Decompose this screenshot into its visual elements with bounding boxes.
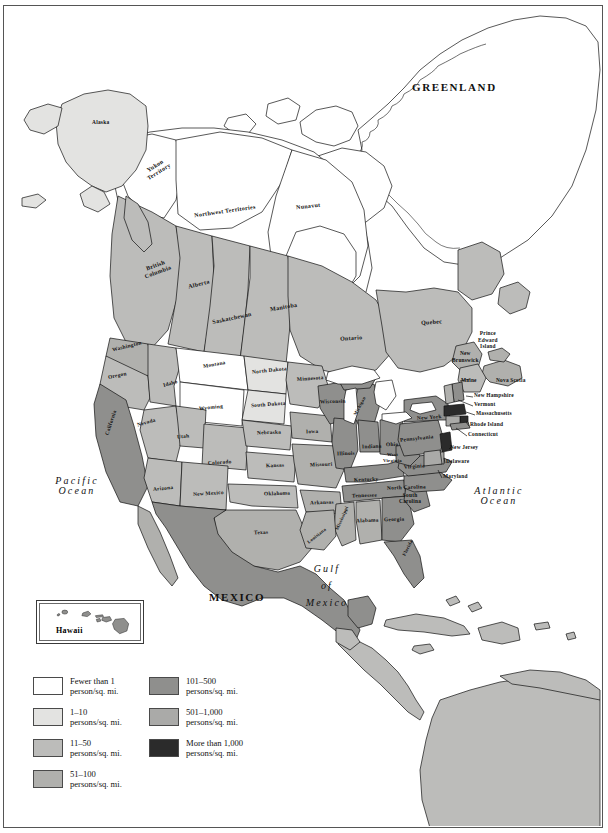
region-new-mexico xyxy=(180,462,228,510)
island-lesser-antilles xyxy=(566,632,576,640)
lg-a2-l1: 11–50 xyxy=(70,738,91,748)
lg-b1-l2: persons/sq. mi. xyxy=(186,717,238,727)
island-niihau xyxy=(57,613,60,616)
region-illinois xyxy=(332,418,358,470)
legend-item-1-10[interactable]: 1–10 persons/sq. mi. xyxy=(33,707,122,727)
region-mississippi xyxy=(334,502,356,546)
lg-b0-l2: persons/sq. mi. xyxy=(186,686,238,696)
lg-b0-l1: 101–500 xyxy=(186,676,216,686)
lg-b2-l2: persons/sq. mi. xyxy=(186,748,238,758)
lg-a0-l2: person/sq. mi. xyxy=(70,686,118,696)
legend-swatch-more-than-1000 xyxy=(149,739,179,757)
island-hawaii-big xyxy=(113,618,129,633)
region-idaho xyxy=(148,344,180,406)
region-labrador xyxy=(458,242,504,300)
region-utah xyxy=(176,406,206,448)
legend-item-51-100[interactable]: 51–100 persons/sq. mi. xyxy=(33,769,122,789)
region-new-jersey xyxy=(440,432,452,452)
region-south-dakota xyxy=(242,390,286,424)
region-indiana xyxy=(358,420,380,452)
legend-label-fewer-than-1: Fewer than 1 person/sq. mi. xyxy=(70,676,118,696)
region-arctic-islands xyxy=(300,106,358,146)
region-south-america xyxy=(420,678,600,828)
legend-item-11-50[interactable]: 11–50 persons/sq. mi. xyxy=(33,738,122,758)
alaska-west-coast xyxy=(24,104,62,134)
island-puerto-rico xyxy=(534,622,550,630)
region-kansas xyxy=(246,452,296,482)
region-nevada xyxy=(140,406,182,462)
lg-a3-l1: 51–100 xyxy=(70,769,96,779)
region-arctic-small-1 xyxy=(266,98,300,124)
region-greenland xyxy=(352,16,600,266)
region-massachusetts xyxy=(444,404,466,416)
lake-michigan xyxy=(344,388,358,424)
region-colorado xyxy=(202,424,248,470)
island-kauai xyxy=(62,610,68,614)
legend-item-101-500[interactable]: 101–500 persons/sq. mi. xyxy=(149,676,243,696)
hawaii-inset: Hawaii xyxy=(36,600,144,644)
legend-item-fewer-than-1[interactable]: Fewer than 1 person/sq. mi. xyxy=(33,676,122,696)
lg-a1-l2: persons/sq. mi. xyxy=(70,717,122,727)
region-oklahoma xyxy=(228,484,298,508)
island-hispaniola xyxy=(478,622,520,644)
legend-item-more-than-1000[interactable]: More than 1,000 persons/sq. mi. xyxy=(149,738,243,758)
legend-swatch-1-10 xyxy=(33,708,63,726)
legend-column-right: 101–500 persons/sq. mi. 501–1,000 person… xyxy=(149,676,243,769)
lg-a1-l1: 1–10 xyxy=(70,707,87,717)
island-oahu xyxy=(82,611,91,616)
alaska-aleutians xyxy=(22,194,46,208)
lg-a0-l1: Fewer than 1 xyxy=(70,676,115,686)
hawaii-islands xyxy=(40,604,140,640)
legend-label-101-500: 101–500 persons/sq. mi. xyxy=(186,676,238,696)
legend-label-501-1000: 501–1,000 persons/sq. mi. xyxy=(186,707,238,727)
legend-swatch-51-100 xyxy=(33,770,63,788)
region-north-dakota xyxy=(244,356,288,394)
region-florida xyxy=(384,540,424,588)
hawaii-inset-inner: Hawaii xyxy=(39,603,141,641)
legend-item-501-1000[interactable]: 501–1,000 persons/sq. mi. xyxy=(149,707,243,727)
legend-swatch-fewer-than-1 xyxy=(33,677,63,695)
legend-swatch-11-50 xyxy=(33,739,63,757)
lg-b1-l1: 501–1,000 xyxy=(186,707,223,717)
island-bahamas-2 xyxy=(468,602,482,612)
legend-column-left: Fewer than 1 person/sq. mi. 1–10 persons… xyxy=(33,676,122,800)
legend-label-11-50: 11–50 persons/sq. mi. xyxy=(70,738,122,758)
lg-b2-l1: More than 1,000 xyxy=(186,738,243,748)
region-nebraska xyxy=(242,420,292,450)
island-molokai xyxy=(95,615,103,618)
legend-label-51-100: 51–100 persons/sq. mi. xyxy=(70,769,122,789)
legend-label-more-than-1000: More than 1,000 persons/sq. mi. xyxy=(186,738,243,758)
hawaii-label: Hawaii xyxy=(56,626,83,635)
island-lanai xyxy=(96,618,101,622)
island-jamaica xyxy=(412,644,434,654)
region-vermont xyxy=(444,384,454,404)
region-newfoundland xyxy=(498,282,530,314)
legend: Fewer than 1 person/sq. mi. 1–10 persons… xyxy=(33,676,303,801)
region-prince-edward-island xyxy=(488,348,510,362)
lg-a3-l2: persons/sq. mi. xyxy=(70,779,122,789)
island-maui xyxy=(102,617,112,622)
region-maryland xyxy=(424,450,442,466)
legend-label-1-10: 1–10 persons/sq. mi. xyxy=(70,707,122,727)
legend-swatch-101-500 xyxy=(149,677,179,695)
region-alabama xyxy=(356,500,382,544)
region-nova-scotia xyxy=(482,360,522,386)
island-bahamas-1 xyxy=(446,596,460,606)
lg-a2-l2: persons/sq. mi. xyxy=(70,748,122,758)
region-louisiana xyxy=(300,510,336,550)
legend-swatch-501-1000 xyxy=(149,708,179,726)
region-arizona xyxy=(144,458,182,506)
island-cuba xyxy=(384,614,470,636)
